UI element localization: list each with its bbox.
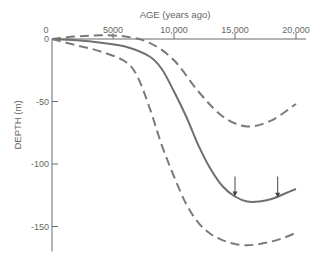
x-axis-title: AGE (years ago) — [140, 9, 211, 20]
x-tick-label: 15,000 — [221, 25, 249, 35]
annotations-layer — [233, 177, 281, 198]
axes: 0500010,00015,00020,0000-50-100-150 — [31, 25, 310, 252]
x-tick-label: 10,000 — [160, 25, 188, 35]
dashed-curve — [52, 35, 296, 126]
y-tick-label: -100 — [31, 159, 49, 169]
x-tick-label: 5000 — [103, 25, 123, 35]
y-tick-label: -150 — [31, 222, 49, 232]
dashed-curve — [52, 39, 296, 245]
x-tick-label: 20,000 — [282, 25, 310, 35]
y-axis-title: DEPTH (m) — [12, 100, 23, 149]
y-tick-label: -50 — [36, 97, 49, 107]
y-tick-label: 0 — [44, 34, 49, 44]
series-layer — [52, 35, 296, 245]
sea-level-chart: 0500010,00015,00020,0000-50-100-150 AGE … — [0, 0, 322, 264]
